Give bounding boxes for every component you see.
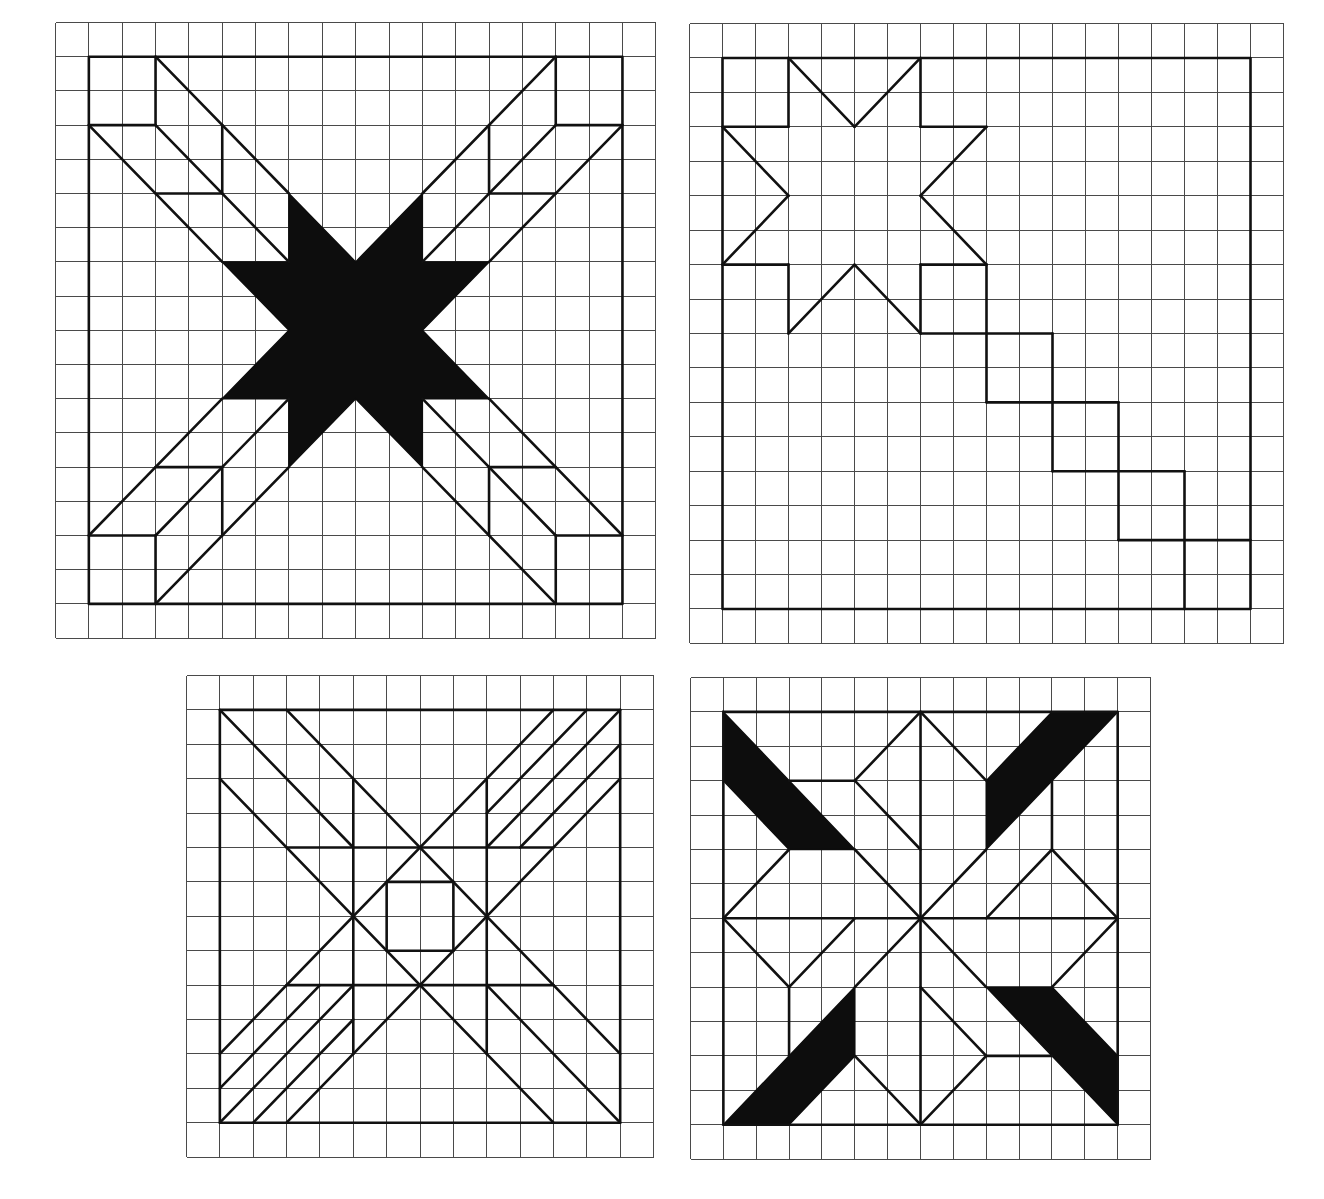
grid-canvas [55, 22, 657, 640]
panel-x-block-with-stripes [186, 675, 655, 1159]
panel-pinwheel-with-black-bars [690, 677, 1152, 1161]
grid-canvas [690, 677, 1152, 1161]
grid-canvas [186, 675, 655, 1159]
grid-canvas [689, 23, 1285, 645]
panel-star-with-staircase [689, 23, 1285, 645]
panel-star-with-bars [55, 22, 657, 640]
